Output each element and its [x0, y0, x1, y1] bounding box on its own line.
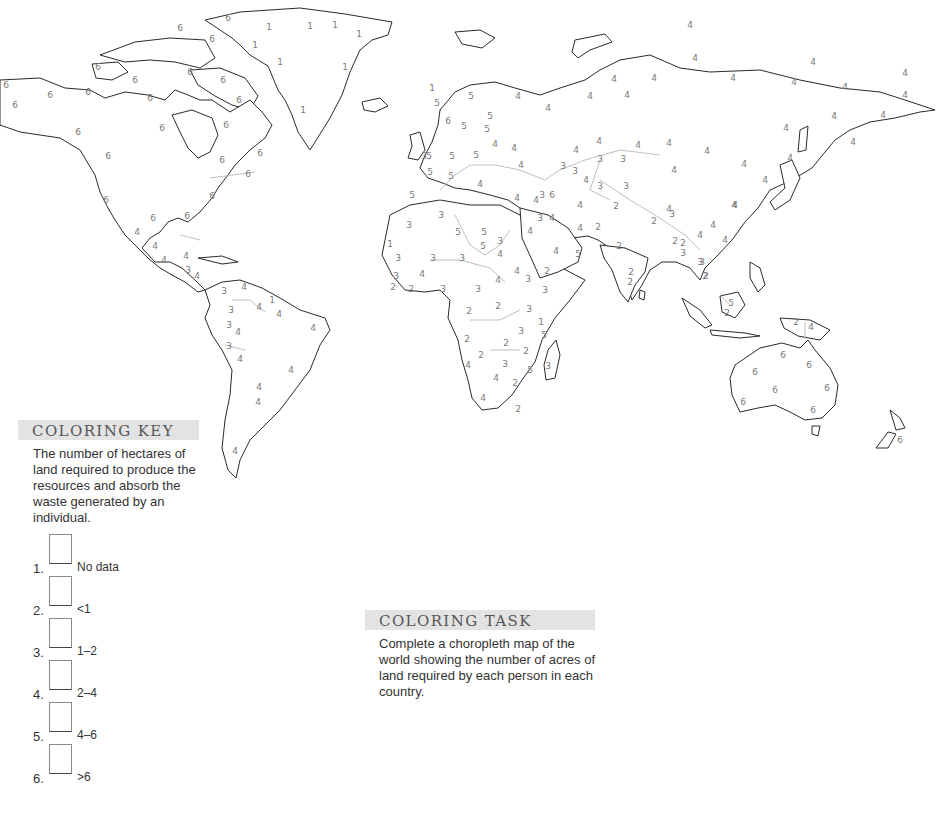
map-value-label: 2	[616, 242, 622, 251]
map-value-label: 6	[209, 35, 215, 44]
color-swatch-over-6[interactable]	[49, 744, 72, 774]
map-value-label: 3	[699, 258, 705, 267]
map-value-label: 4	[762, 176, 768, 185]
map-value-label: 3	[680, 249, 686, 258]
new-zealand-north-shape	[890, 410, 905, 430]
map-value-label: 4	[730, 74, 736, 83]
key-label: No data	[77, 560, 119, 574]
map-value-label: 4	[722, 236, 728, 245]
map-value-label: 3	[459, 254, 465, 263]
map-value-label: 2	[523, 347, 529, 356]
map-value-label: 4	[611, 75, 617, 84]
new-zealand-south-shape	[876, 432, 896, 448]
map-value-label: 4	[495, 276, 501, 285]
map-value-label: 4	[671, 166, 677, 175]
color-swatch-1-2[interactable]	[49, 618, 72, 648]
map-value-label: 4	[666, 139, 672, 148]
map-value-label: 4	[783, 124, 789, 133]
map-value-label: 4	[651, 74, 657, 83]
map-value-label: 4	[255, 398, 261, 407]
map-value-label: 4	[232, 447, 238, 456]
map-value-label: 5	[527, 366, 533, 375]
map-value-label: 3	[438, 211, 444, 220]
map-value-label: 5	[473, 151, 479, 160]
map-value-label: 6	[780, 351, 786, 360]
color-swatch-4-6[interactable]	[49, 702, 72, 732]
map-value-label: 2	[515, 405, 521, 414]
map-value-label: 4	[624, 91, 630, 100]
map-value-label: 4	[710, 221, 716, 230]
map-value-label: 4	[731, 201, 737, 210]
map-value-label: 6	[147, 94, 153, 103]
map-value-label: 4	[635, 141, 641, 150]
map-value-label: 6	[245, 170, 251, 179]
map-value-label: 3	[430, 254, 436, 263]
map-value-label: 4	[477, 180, 483, 189]
sri-lanka-shape	[639, 290, 645, 300]
color-swatch-no-data[interactable]	[49, 534, 72, 564]
map-value-label: 6	[772, 386, 778, 395]
color-swatch-under-1[interactable]	[49, 576, 72, 606]
map-value-label: 4	[241, 283, 247, 292]
map-value-label: 6	[236, 96, 242, 105]
map-value-label: 3	[669, 210, 675, 219]
map-value-label: 6	[47, 91, 53, 100]
map-value-label: 3	[226, 321, 232, 330]
map-value-label: 3	[597, 155, 603, 164]
map-value-label: 4	[808, 323, 814, 332]
map-value-label: 2	[544, 267, 550, 276]
map-value-label: 2	[464, 335, 470, 344]
map-value-label: 4	[134, 228, 140, 237]
map-value-label: 4	[549, 214, 555, 223]
map-value-label: 1	[269, 296, 275, 305]
key-number: 2.	[33, 603, 47, 618]
map-value-label: 5	[461, 122, 467, 131]
map-value-label: 1	[387, 240, 393, 249]
key-number: 4.	[33, 687, 47, 702]
map-value-label: 3	[497, 237, 503, 246]
map-value-label: 4	[235, 328, 241, 337]
map-value-label: 5	[448, 172, 454, 181]
map-value-label: 4	[545, 104, 551, 113]
cuba-shape	[198, 256, 238, 264]
map-value-label: 6	[810, 406, 816, 415]
map-value-label: 4	[810, 58, 816, 67]
map-value-label: 2	[724, 309, 730, 318]
map-value-label: 4	[310, 324, 316, 333]
sumatra-shape	[682, 298, 712, 328]
coloring-task-description: Complete a choropleth map of the world s…	[379, 636, 599, 700]
map-value-label: 6	[75, 128, 81, 137]
map-value-label: 5	[484, 125, 490, 134]
map-value-label: 2	[466, 307, 472, 316]
map-value-label: 2	[672, 237, 678, 246]
map-value-label: 4	[183, 252, 189, 261]
map-value-label: 4	[692, 54, 698, 63]
color-swatch-2-4[interactable]	[49, 660, 72, 690]
map-value-label: 3	[395, 254, 401, 263]
map-value-label: 4	[697, 231, 703, 240]
map-value-label: 3	[545, 362, 551, 371]
map-value-label: 4	[419, 270, 425, 279]
map-value-label: 1	[342, 63, 348, 72]
map-value-label: 4	[880, 111, 886, 120]
map-value-label: 4	[902, 69, 908, 78]
tasmania-shape	[812, 426, 820, 436]
map-value-label: 1	[307, 22, 313, 31]
key-number: 6.	[33, 771, 47, 786]
map-value-label: 6	[257, 149, 263, 158]
map-value-label: 6	[85, 88, 91, 97]
key-label: >6	[77, 770, 91, 784]
map-value-label: 6	[132, 76, 138, 85]
map-value-label: 5	[728, 299, 734, 308]
map-value-label: 3	[440, 285, 446, 294]
map-value-label: 4	[831, 112, 837, 121]
map-value-label: 3	[597, 182, 603, 191]
map-value-label: 2	[627, 278, 633, 287]
map-value-label: 5	[455, 228, 461, 237]
map-value-label: 3	[221, 287, 227, 296]
map-value-label: 2	[595, 223, 601, 232]
map-value-label: 4	[514, 267, 520, 276]
key-number: 3.	[33, 645, 47, 660]
svalbard-shape	[455, 30, 495, 48]
map-value-label: 4	[492, 140, 498, 149]
